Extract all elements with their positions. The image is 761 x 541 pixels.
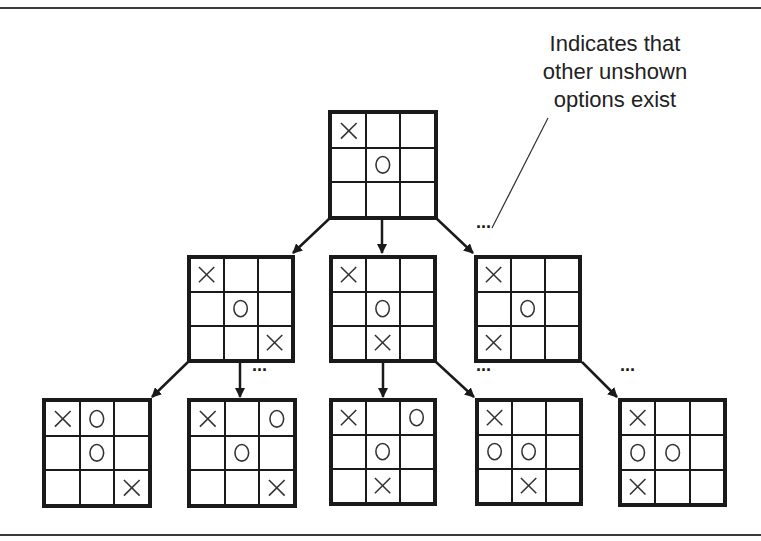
board-cell-0 <box>45 401 80 436</box>
x-mark-icon <box>485 408 504 427</box>
board-cell-1 <box>80 401 115 436</box>
x-mark-icon <box>373 333 392 352</box>
board-l2-b <box>329 255 437 363</box>
x-mark-icon <box>628 408 647 427</box>
board-cell-1 <box>366 258 400 292</box>
x-mark-icon <box>628 477 647 496</box>
o-mark-icon <box>663 443 682 462</box>
board-cell-5 <box>259 436 294 471</box>
board-cell-5 <box>114 436 149 471</box>
arrow-l2-a-to-l3-a <box>152 362 188 397</box>
o-mark-icon <box>87 409 107 429</box>
board-cell-8 <box>546 469 580 503</box>
board-cell-1 <box>366 401 400 435</box>
x-mark-icon <box>267 478 287 498</box>
board-cell-0 <box>621 401 655 435</box>
board-cell-3 <box>621 435 655 469</box>
o-mark-icon <box>628 443 647 462</box>
board-cell-0 <box>190 401 225 436</box>
board-cell-8 <box>400 326 434 360</box>
board-cell-4 <box>366 292 400 326</box>
ellipsis-more-options: ... <box>476 212 491 232</box>
board-l3-d <box>475 398 583 506</box>
o-mark-icon <box>232 443 252 463</box>
board-cell-3 <box>45 436 80 471</box>
board-cell-4 <box>225 436 260 471</box>
board-cell-6 <box>45 470 80 505</box>
arrow-l2-c-to-l3-e <box>582 362 617 397</box>
board-cell-3 <box>332 292 366 326</box>
board-cell-8 <box>690 470 724 504</box>
board-cell-0 <box>332 258 366 292</box>
x-mark-icon <box>339 121 359 141</box>
board-cell-2 <box>690 401 724 435</box>
board-cell-1 <box>225 401 260 436</box>
board-cell-8 <box>114 470 149 505</box>
board-cell-0 <box>331 113 366 148</box>
board-cell-1 <box>655 401 689 435</box>
board-l3-c <box>329 398 437 506</box>
board-cell-2 <box>114 401 149 436</box>
board-cell-0 <box>332 401 366 435</box>
board-cell-5 <box>545 292 579 326</box>
board-cell-3 <box>190 292 224 326</box>
board-cell-3 <box>477 292 511 326</box>
board-cell-2 <box>400 401 434 435</box>
board-cell-0 <box>190 258 224 292</box>
x-mark-icon <box>339 265 358 284</box>
board-cell-6 <box>332 469 366 503</box>
o-mark-icon <box>519 442 538 461</box>
board-cell-0 <box>478 401 512 435</box>
board-cell-8 <box>400 182 435 217</box>
x-mark-icon <box>198 409 218 429</box>
x-mark-icon <box>373 476 392 495</box>
board-cell-5 <box>400 148 435 183</box>
board-cell-7 <box>366 182 401 217</box>
board-cell-1 <box>224 258 258 292</box>
board-l3-e <box>618 398 727 507</box>
board-cell-4 <box>655 435 689 469</box>
board-cell-2 <box>546 401 580 435</box>
board-l2-c <box>474 255 582 363</box>
board-cell-4 <box>366 148 401 183</box>
board-cell-7 <box>224 326 258 360</box>
x-mark-icon <box>197 265 216 284</box>
board-cell-2 <box>400 258 434 292</box>
x-mark-icon <box>519 476 538 495</box>
o-mark-icon <box>518 299 537 318</box>
board-cell-6 <box>332 326 366 360</box>
board-cell-6 <box>477 326 511 360</box>
board-cell-2 <box>258 258 292 292</box>
board-cell-7 <box>225 470 260 505</box>
x-mark-icon <box>53 409 73 429</box>
o-mark-icon <box>485 442 504 461</box>
x-mark-icon <box>122 478 142 498</box>
board-cell-8 <box>259 470 294 505</box>
x-mark-icon <box>339 408 358 427</box>
x-mark-icon <box>484 333 503 352</box>
board-cell-6 <box>190 470 225 505</box>
x-mark-icon <box>484 265 503 284</box>
board-l2-a <box>187 255 295 363</box>
board-cell-7 <box>366 469 400 503</box>
board-cell-1 <box>511 258 545 292</box>
annotation-leader-line <box>492 118 548 228</box>
arrow-root-to-l2-a <box>293 218 330 253</box>
board-cell-2 <box>400 113 435 148</box>
o-mark-icon <box>231 299 250 318</box>
o-mark-icon <box>267 409 287 429</box>
board-cell-7 <box>655 470 689 504</box>
board-cell-5 <box>546 435 580 469</box>
o-mark-icon <box>373 155 393 175</box>
board-cell-4 <box>80 436 115 471</box>
board-cell-4 <box>366 435 400 469</box>
board-cell-1 <box>366 113 401 148</box>
board-cell-7 <box>80 470 115 505</box>
board-cell-0 <box>477 258 511 292</box>
board-l3-b <box>187 398 297 508</box>
arrow-l2-b-to-l3-d <box>436 362 474 397</box>
o-mark-icon <box>373 442 392 461</box>
board-cell-6 <box>331 182 366 217</box>
board-cell-3 <box>478 435 512 469</box>
board-l3-a <box>42 398 152 508</box>
